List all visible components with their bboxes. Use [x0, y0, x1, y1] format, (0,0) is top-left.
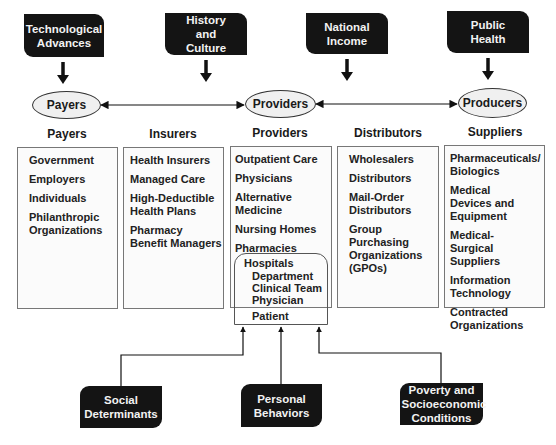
node-payers: Payers: [32, 91, 101, 119]
hospital-box: Hospitals Department Clinical Team Physi…: [234, 253, 328, 325]
list-item: Individuals: [29, 192, 117, 205]
factor-label: Poverty and Socioeconomic Conditions: [402, 383, 482, 425]
factor-poverty-socioeconomic: Poverty and Socioeconomic Conditions: [400, 383, 483, 425]
hospital-label: Hospitals: [244, 257, 294, 270]
factor-label: National Income: [317, 20, 377, 48]
factor-personal-behaviors: Personal Behaviors: [241, 384, 322, 427]
node-label: Payers: [47, 98, 86, 112]
hospital-level: Department: [252, 270, 313, 283]
column-payers: Government Employers Individuals Philant…: [17, 147, 118, 309]
factor-social-determinants: Social Determinants: [80, 386, 162, 428]
list-item: Group Purchasing Organizations (GPOs): [349, 223, 421, 275]
factor-technological-advances: Technological Advances: [24, 14, 104, 57]
factor-label: Social Determinants: [81, 393, 161, 421]
factor-label: Personal Behaviors: [249, 392, 314, 420]
list-item: Philanthropic Organizations: [29, 211, 104, 237]
node-label: Providers: [253, 97, 308, 111]
down-arrow-icon: [57, 58, 494, 84]
list-item: High-Deductible Health Plans: [130, 192, 215, 218]
list-item: Health Insurers: [130, 154, 223, 167]
node-providers: Providers: [245, 90, 316, 118]
column-title: Providers: [225, 126, 335, 140]
column-title: Payers: [12, 127, 122, 141]
list-item: Alternative Medicine: [235, 191, 295, 217]
factor-label: Public Health: [463, 18, 513, 46]
list-item: Distributors: [349, 172, 438, 185]
list-item: Pharmacy Benefit Managers: [130, 224, 222, 250]
column-title: Distributors: [333, 126, 443, 140]
factor-label: Technological Advances: [24, 22, 104, 50]
column-title: Suppliers: [440, 125, 550, 139]
list-item: Wholesalers: [349, 153, 438, 166]
list-item: Information Technology: [450, 274, 520, 300]
list-item: Government: [29, 154, 117, 167]
node-producers: Producers: [458, 88, 527, 118]
column-title: Insurers: [118, 127, 228, 141]
factor-public-health: Public Health: [447, 11, 529, 53]
hospital-level: Physician: [252, 294, 303, 307]
list-item: Contracted Organizations: [450, 306, 530, 332]
node-label: Producers: [463, 96, 522, 110]
list-item: Pharmaceuticals/ Biologics: [450, 152, 540, 178]
list-item: Employers: [29, 173, 117, 186]
column-distributors: Wholesalers Distributors Mail-Order Dist…: [337, 146, 439, 308]
list-item: Outpatient Care: [235, 153, 331, 166]
factor-history-culture: History and Culture: [165, 13, 247, 55]
column-insurers: Health Insurers Managed Care High-Deduct…: [123, 147, 224, 309]
list-item: Medical Devices and Equipment: [450, 184, 530, 223]
list-item: Mail-Order Distributors: [349, 191, 419, 217]
column-suppliers: Pharmaceuticals/ Biologics Medical Devic…: [444, 145, 545, 308]
patient-label: Patient: [252, 310, 289, 323]
hospital-level: Clinical Team: [252, 282, 322, 295]
list-item: Nursing Homes: [235, 223, 331, 236]
list-item: Physicians: [235, 172, 331, 185]
list-item: Medical-Surgical Suppliers: [450, 229, 535, 268]
factor-national-income: National Income: [306, 13, 388, 54]
factor-label: History and Culture: [175, 13, 237, 55]
list-item: Managed Care: [130, 173, 223, 186]
